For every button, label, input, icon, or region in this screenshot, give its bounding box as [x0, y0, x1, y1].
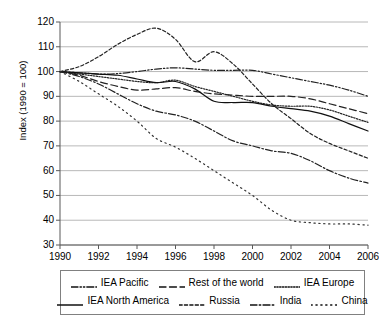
x-tick-label: 2006 — [357, 251, 379, 262]
legend-line-swatch — [311, 296, 337, 306]
x-tick-label: 2000 — [241, 251, 263, 262]
legend-row-2: IEA North AmericaRussiaIndiaChina — [65, 292, 360, 310]
legend-item: IEA Europe — [274, 278, 355, 288]
legend-item: IEA North America — [57, 296, 169, 306]
legend-item: China — [311, 296, 367, 306]
x-tick-label: 2004 — [318, 251, 340, 262]
legend-line-swatch — [159, 278, 185, 288]
series-line — [60, 72, 368, 184]
x-tick-label: 1990 — [49, 251, 71, 262]
legend-line-swatch — [57, 296, 83, 306]
legend-item: India — [250, 296, 302, 306]
x-tick-label: 1996 — [164, 251, 186, 262]
x-tick-label: 1994 — [126, 251, 148, 262]
series-line — [60, 28, 368, 158]
legend-label: IEA Europe — [304, 278, 355, 288]
legend-line-swatch — [179, 296, 205, 306]
legend-label: IEA North America — [87, 296, 169, 306]
legend-line-swatch — [250, 296, 276, 306]
chart-legend: IEA PacificRest of the worldIEA Europe I… — [60, 270, 365, 315]
legend-item: Russia — [179, 296, 240, 306]
legend-label: Rest of the world — [189, 278, 264, 288]
legend-row-1: IEA PacificRest of the worldIEA Europe — [65, 274, 360, 292]
legend-line-swatch — [71, 278, 97, 288]
legend-item: IEA Pacific — [71, 278, 149, 288]
series-line — [60, 68, 368, 96]
series-line — [60, 72, 368, 226]
x-tick-label: 1992 — [87, 251, 109, 262]
legend-label: India — [280, 296, 302, 306]
legend-label: Russia — [209, 296, 240, 306]
legend-label: China — [341, 296, 367, 306]
x-tick-label: 1998 — [203, 251, 225, 262]
x-tick-label: 2002 — [280, 251, 302, 262]
legend-item: Rest of the world — [159, 278, 264, 288]
series-line — [60, 72, 368, 123]
legend-label: IEA Pacific — [101, 278, 149, 288]
x-axis-tick-labels: 199019921994199619982000200220042006 — [0, 249, 378, 265]
legend-line-swatch — [274, 278, 300, 288]
